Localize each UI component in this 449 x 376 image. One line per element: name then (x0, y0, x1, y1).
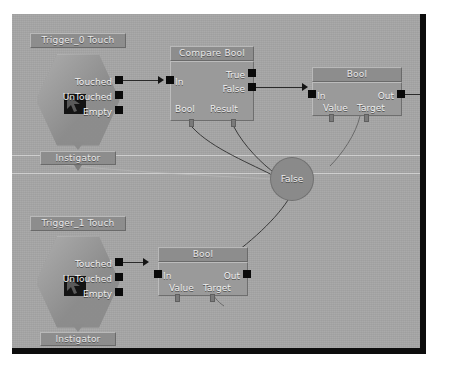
trigger1-instigator-label: Instigator (55, 334, 100, 344)
trigger1-touched-port[interactable] (115, 258, 123, 266)
bool-bottom-title-label: Bool (193, 249, 214, 259)
compare-bool-true-label: True (192, 70, 245, 80)
trigger0-instigator-arrow-bottom (74, 165, 82, 171)
bool-top-value-port[interactable] (329, 114, 334, 122)
bool-top-value-label: Value (323, 103, 348, 113)
trigger1-touched-label: Touched (52, 259, 112, 269)
bool-bottom-out-label: Out (188, 271, 240, 281)
bool-bottom-value-port[interactable] (175, 294, 180, 302)
screenshot-root: Trigger_0 Touch Touched UnTouched Empty … (0, 0, 449, 376)
bool-bottom-value-label: Value (169, 283, 194, 293)
bool-bottom-target-port[interactable] (210, 294, 215, 302)
compare-bool-result-port[interactable] (231, 119, 236, 127)
trigger1-untouched-port[interactable] (115, 273, 123, 281)
trigger1-empty-port[interactable] (115, 288, 123, 296)
compare-bool-bool-port[interactable] (189, 119, 194, 127)
compare-bool-title-label: Compare Bool (179, 48, 245, 58)
wire-trigger0-to-compare (123, 80, 160, 81)
wire-bool-top-out-to-edge (405, 94, 420, 95)
compare-bool-in-label: In (175, 77, 183, 87)
trigger0-title-label: Trigger_0 Touch (42, 35, 115, 45)
trigger1-title-bar[interactable]: Trigger_1 Touch (30, 216, 126, 231)
compare-bool-in-port[interactable] (166, 76, 174, 84)
graph-canvas-frame: Trigger_0 Touch Touched UnTouched Empty … (12, 14, 426, 354)
compare-bool-true-port[interactable] (248, 69, 256, 77)
bool-bottom-title-bar[interactable]: Bool (158, 247, 248, 262)
bool-top-in-port[interactable] (308, 90, 316, 98)
trigger1-empty-label: Empty (52, 289, 112, 299)
trigger1-title-label: Trigger_1 Touch (42, 218, 115, 228)
bool-bottom-in-port[interactable] (154, 270, 162, 278)
bool-bottom-target-label: Target (203, 283, 231, 293)
compare-bool-result-label: Result (210, 104, 238, 114)
trigger0-empty-label: Empty (52, 107, 112, 117)
bool-top-title-bar[interactable]: Bool (312, 67, 402, 82)
bool-bottom-in-label: In (163, 271, 171, 281)
trigger0-instigator-label: Instigator (55, 153, 100, 163)
bool-top-target-port[interactable] (364, 114, 369, 122)
compare-bool-false-port[interactable] (248, 83, 256, 91)
bool-top-out-label: Out (342, 91, 394, 101)
trigger0-touched-label: Touched (52, 77, 112, 87)
bool-top-target-label: Target (357, 103, 385, 113)
compare-bool-false-label: False (192, 84, 245, 94)
graph-canvas[interactable]: Trigger_0 Touch Touched UnTouched Empty … (12, 14, 420, 348)
false-value-label: False (281, 174, 304, 184)
compare-bool-bool-label: Bool (175, 104, 195, 114)
trigger1-untouched-label: UnTouched (42, 274, 112, 284)
trigger0-untouched-port[interactable] (115, 91, 123, 99)
wire-trigger1-to-bool-bottom (123, 262, 145, 263)
trigger0-empty-port[interactable] (115, 106, 123, 114)
bool-bottom-out-port[interactable] (243, 270, 251, 278)
wire-compare-to-bool-top (256, 87, 304, 88)
bool-top-out-port[interactable] (397, 90, 405, 98)
trigger0-instigator-arrow-top (72, 142, 84, 150)
wire-arrow-compare-in (158, 76, 164, 84)
canvas-guide-line-lower (12, 173, 420, 174)
compare-bool-title-bar[interactable]: Compare Bool (170, 46, 254, 61)
trigger1-instigator-arrow-top (72, 324, 84, 332)
wire-arrow-bool-bottom-in (143, 258, 149, 266)
bool-top-in-label: In (317, 91, 325, 101)
trigger0-touched-port[interactable] (115, 76, 123, 84)
trigger0-instigator-bar[interactable]: Instigator (40, 151, 116, 165)
false-value-node[interactable]: False (270, 157, 314, 201)
bool-top-title-label: Bool (347, 69, 368, 79)
trigger1-instigator-bar[interactable]: Instigator (40, 332, 116, 346)
trigger0-title-bar[interactable]: Trigger_0 Touch (30, 33, 126, 48)
trigger0-untouched-label: UnTouched (42, 92, 112, 102)
